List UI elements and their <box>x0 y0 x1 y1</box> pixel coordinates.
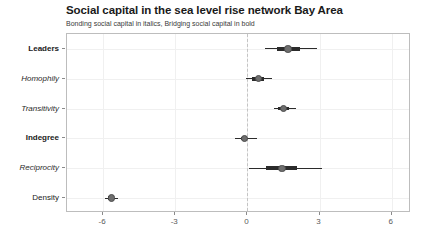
grid-line-vertical <box>103 34 104 211</box>
estimate-point[interactable] <box>108 194 115 201</box>
x-axis-tick <box>391 212 392 215</box>
x-axis-tick-label: -3 <box>171 217 178 226</box>
estimate-point[interactable] <box>284 45 291 52</box>
y-axis-tick <box>62 137 65 138</box>
chart-container: Social capital in the sea level rise net… <box>0 0 429 243</box>
x-axis-tick-label: 3 <box>316 217 320 226</box>
chart-title: Social capital in the sea level rise net… <box>66 4 343 16</box>
y-axis-tick <box>62 48 65 49</box>
plot-panel <box>66 33 410 212</box>
grid-line-horizontal <box>67 79 409 80</box>
x-axis-tick-label: 6 <box>389 217 393 226</box>
grid-line-vertical <box>320 34 321 211</box>
grid-line-horizontal <box>67 49 409 50</box>
estimate-point[interactable] <box>278 165 285 172</box>
chart-subtitle: Bonding social capital in italics, Bridg… <box>66 20 255 27</box>
grid-line-vertical <box>175 34 176 211</box>
x-axis-tick <box>174 212 175 215</box>
x-axis-tick-label: -6 <box>99 217 106 226</box>
y-axis-label: Density <box>0 193 59 202</box>
estimate-point[interactable] <box>255 75 262 82</box>
x-axis-tick-label: 0 <box>244 217 248 226</box>
x-axis-tick <box>246 212 247 215</box>
zero-reference-line <box>247 34 248 211</box>
y-axis-label: Homophily <box>0 73 59 82</box>
x-axis-tick <box>319 212 320 215</box>
y-axis-label: Transitivity <box>0 103 59 112</box>
y-axis-label: Leaders <box>0 43 59 52</box>
y-axis-label: Reciprocity <box>0 163 59 172</box>
x-axis-tick <box>102 212 103 215</box>
grid-line-horizontal <box>67 168 409 169</box>
y-axis-tick <box>62 167 65 168</box>
y-axis-tick <box>62 78 65 79</box>
estimate-point[interactable] <box>241 135 248 142</box>
y-axis-tick <box>62 197 65 198</box>
grid-line-vertical <box>392 34 393 211</box>
grid-line-horizontal <box>67 109 409 110</box>
y-axis-tick <box>62 108 65 109</box>
estimate-point[interactable] <box>280 105 287 112</box>
y-axis-label: Indegree <box>0 133 59 142</box>
